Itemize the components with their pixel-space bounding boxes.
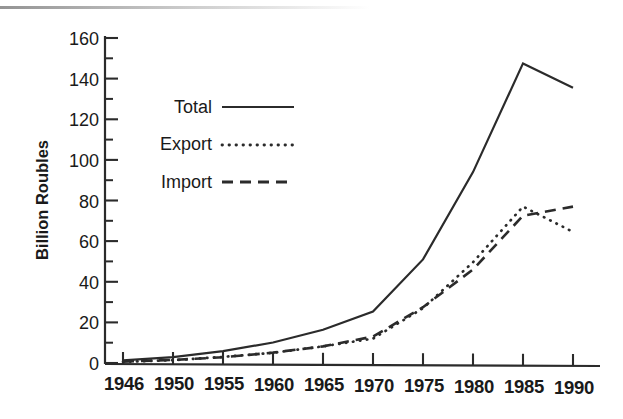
chart-legend: Total Export Import <box>160 97 294 192</box>
series-line-export <box>123 207 573 362</box>
y-axis-title: Billion Roubles <box>33 140 51 260</box>
y-tick-label: 20 <box>79 313 99 333</box>
y-tick-label: 100 <box>69 151 99 171</box>
legend-label-total: Total <box>174 97 212 117</box>
y-tick-label: 80 <box>79 192 99 212</box>
x-tick-label: 1980 <box>454 376 494 397</box>
x-tick-labels: 1946 1950 1955 1960 1965 1970 1975 1980 … <box>104 373 594 398</box>
y-tick-labels: 0 20 40 60 80 100 120 140 160 <box>69 29 99 374</box>
x-tick-label: 1965 <box>304 374 344 395</box>
legend-label-import: Import <box>161 172 212 192</box>
x-tick-label: 1960 <box>254 374 294 395</box>
x-axis-line <box>105 364 600 366</box>
y-tick-label: 40 <box>79 273 99 293</box>
x-tick-label: 1975 <box>404 375 444 396</box>
chart-page: 0 20 40 60 80 100 120 140 160 1946 1950 … <box>0 0 623 419</box>
x-tick-label: 1955 <box>204 373 244 394</box>
y-major-ticks <box>105 38 118 363</box>
y-tick-label: 140 <box>69 70 99 90</box>
legend-label-export: Export <box>160 134 212 154</box>
x-tick-label: 1990 <box>554 377 594 398</box>
y-tick-label: 0 <box>89 354 99 374</box>
x-tick-label: 1985 <box>504 376 544 397</box>
x-tick-label: 1970 <box>354 375 394 396</box>
x-tick-label: 1950 <box>154 373 194 394</box>
y-tick-label: 120 <box>69 110 99 130</box>
y-tick-label: 60 <box>79 232 99 252</box>
y-tick-label: 160 <box>69 29 99 49</box>
series-line-import <box>123 207 573 362</box>
trade-line-chart: 0 20 40 60 80 100 120 140 160 1946 1950 … <box>0 0 623 419</box>
x-tick-label: 1946 <box>104 373 144 394</box>
